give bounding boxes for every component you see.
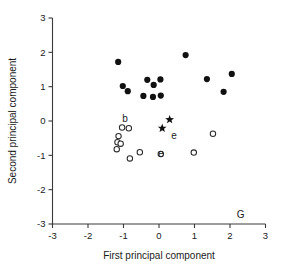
data-point-star (158, 124, 167, 132)
data-point-open-circle (119, 125, 124, 130)
data-point-filled-circle (157, 76, 163, 82)
y-tick-label-1: -2 (37, 184, 45, 195)
x-tick-label-0: -3 (48, 230, 56, 241)
data-point-filled-circle (115, 59, 121, 65)
data-point-filled-circle (120, 83, 126, 89)
data-point-filled-circle (183, 52, 189, 58)
data-point-open-circle (118, 141, 123, 146)
data-point-filled-circle (125, 88, 131, 94)
annotation-label-e-1: e (171, 130, 177, 141)
y-tick-label-5: 2 (40, 47, 45, 58)
data-point-filled-circle (144, 77, 150, 83)
y-tick-label-0: -3 (37, 218, 45, 229)
annotations-group: beeG (122, 113, 245, 220)
data-point-filled-circle (229, 71, 235, 77)
x-tick-label-2: -1 (119, 230, 127, 241)
data-point-filled-circle (150, 94, 156, 100)
y-tick-label-3: 0 (40, 115, 45, 126)
annotation-label-G-3: G (237, 209, 245, 220)
data-point-open-circle (137, 150, 142, 155)
x-tick-label-3: 0 (156, 230, 161, 241)
data-point-open-circle (116, 133, 121, 138)
y-tick-label-2: -1 (37, 150, 45, 161)
scatter-plot-figure: -3-2-10123-3-2-10123 beeG First principa… (0, 0, 287, 268)
axes-group: -3-2-10123-3-2-10123 (37, 12, 268, 241)
data-point-open-circle (127, 156, 132, 161)
x-tick-label-6: 3 (263, 230, 268, 241)
x-tick-label-4: 1 (192, 230, 197, 241)
x-tick-label-1: -2 (84, 230, 92, 241)
data-point-open-circle (191, 150, 196, 155)
y-axis-title: Second principal component (7, 58, 18, 184)
x-tick-label-5: 2 (227, 230, 232, 241)
data-point-open-circle (210, 131, 215, 136)
annotation-label-e-2: e (158, 148, 164, 159)
principal-component-scatter-chart: -3-2-10123-3-2-10123 beeG First principa… (0, 0, 287, 268)
data-point-open-circle (114, 146, 119, 151)
data-point-filled-circle (158, 92, 164, 98)
data-point-filled-circle (151, 82, 157, 88)
y-tick-label-6: 3 (40, 12, 45, 23)
data-point-filled-circle (140, 93, 146, 99)
x-axis-title: First principal component (103, 250, 215, 261)
data-point-star (165, 115, 174, 123)
data-points-group (114, 52, 235, 161)
data-point-filled-circle (221, 89, 227, 95)
data-point-open-circle (126, 126, 131, 131)
annotation-label-b-0: b (122, 113, 128, 124)
data-point-filled-circle (204, 76, 210, 82)
y-tick-label-4: 1 (40, 81, 45, 92)
